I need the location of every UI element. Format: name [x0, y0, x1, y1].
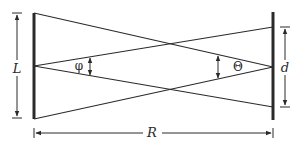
label-theta: Θ — [233, 60, 243, 74]
label-R: R — [146, 125, 157, 140]
label-d: d — [281, 60, 289, 75]
label-L: L — [12, 61, 22, 76]
optics-diagram: L d R φ Θ — [0, 0, 301, 147]
label-phi: φ — [75, 59, 83, 73]
